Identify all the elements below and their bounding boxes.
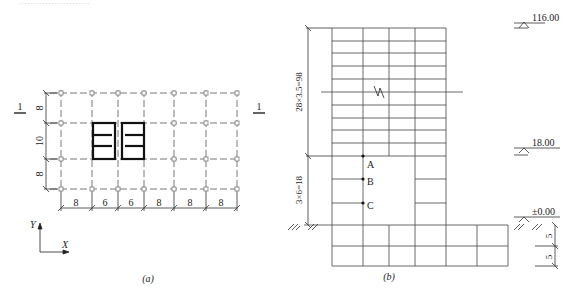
axis-label-x: X (61, 239, 69, 250)
basement-dim-2: 5 (544, 254, 554, 259)
upper-floors (321, 28, 463, 156)
span-x-4: 8 (157, 197, 162, 208)
point-label-b: B (367, 176, 374, 187)
caption-b: (b) (383, 271, 395, 283)
axis-label-y: Y (30, 219, 37, 230)
point-label-a: A (367, 159, 375, 170)
elevation-dimension-line (305, 25, 332, 228)
span-x-5: 8 (188, 197, 193, 208)
span-y-2: 10 (34, 136, 45, 146)
basement-dim-1: 5 (544, 233, 554, 238)
level-0: ±0.00 (532, 206, 555, 217)
level-116: 116.00 (532, 12, 559, 23)
span-y-1: 8 (34, 106, 45, 111)
level-18: 18.00 (532, 137, 555, 148)
span-x-3: 6 (129, 197, 134, 208)
span-x-1: 8 (74, 197, 79, 208)
plan-x-dimension-line (58, 192, 240, 211)
core-tube (93, 123, 144, 159)
upper-dimension-label: 28×3.5=98 (294, 72, 304, 112)
span-x-2: 6 (103, 197, 108, 208)
plan-grid-vertical (61, 90, 237, 192)
plan-columns (59, 91, 239, 191)
lower-dimension-label: 3×6=18 (294, 175, 304, 204)
figure-canvas: …………………… (0, 0, 577, 293)
point-label-c: C (367, 200, 374, 211)
span-y-3: 8 (34, 172, 45, 177)
section-label-left: 1 (18, 101, 23, 112)
header-fragment: …………………… (18, 0, 90, 6)
elevation-frame (288, 22, 560, 269)
caption-a: (a) (142, 273, 154, 285)
level-markers (514, 22, 560, 222)
span-x-6: 8 (219, 197, 224, 208)
section-label-right: 1 (257, 101, 262, 112)
floor-plan (14, 90, 265, 254)
basement-dimension-line (535, 222, 558, 269)
plan-y-dimension-line (43, 90, 58, 192)
